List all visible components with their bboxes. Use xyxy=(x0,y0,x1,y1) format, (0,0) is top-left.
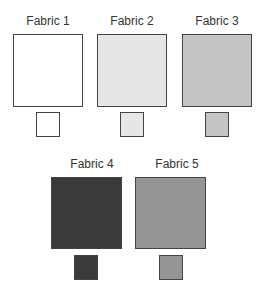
fabric-label: Fabric 3 xyxy=(177,14,257,28)
small-swatch xyxy=(205,112,229,137)
small-swatch xyxy=(36,112,60,137)
fabric-label: Fabric 4 xyxy=(52,157,132,171)
large-swatch xyxy=(51,177,122,249)
fabric-label: Fabric 2 xyxy=(92,14,172,28)
fabric-label: Fabric 5 xyxy=(137,157,217,171)
small-swatch xyxy=(74,255,98,280)
large-swatch xyxy=(97,34,167,107)
fabric-label: Fabric 1 xyxy=(8,14,88,28)
small-swatch xyxy=(159,255,183,280)
small-swatch xyxy=(120,112,144,137)
large-swatch xyxy=(182,34,252,107)
large-swatch xyxy=(135,177,206,249)
large-swatch xyxy=(13,34,83,107)
